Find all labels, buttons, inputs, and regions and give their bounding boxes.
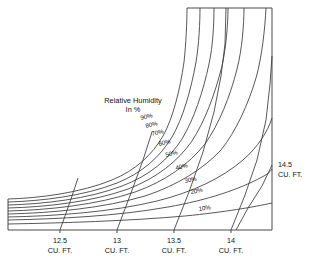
volume-label-12-5-unit: CU. FT.: [48, 246, 72, 255]
rh-curve-10: [8, 203, 272, 224]
rh-curve-70: [8, 8, 214, 205]
psychrometric-chart: Relative Humidity In % 90% 80% 70% 60% 5…: [0, 0, 316, 262]
volume-label-13-5-unit: CU. FT.: [162, 246, 186, 255]
volume-label-13-unit: CU. FT.: [105, 246, 129, 255]
rh-label-70: 70%: [151, 127, 165, 137]
rh-label-40: 40%: [175, 161, 189, 171]
chart-canvas: Relative Humidity In % 90% 80% 70% 60% 5…: [0, 0, 316, 262]
volume-label-13-value: 13: [113, 236, 121, 245]
rh-label-80: 80%: [145, 119, 159, 129]
rh-label-50: 50%: [165, 148, 179, 158]
volume-line-13-5: [174, 8, 226, 230]
rh-label-30: 30%: [184, 175, 198, 184]
rh-label-20: 20%: [190, 186, 204, 195]
rh-title-line1: Relative Humidity: [104, 96, 162, 105]
volume-label-14-unit: CU. FT.: [219, 246, 243, 255]
volume-label-13-5-value: 13.5: [167, 236, 181, 245]
volume-label-12-5-value: 12.5: [53, 236, 67, 245]
rh-label-10: 10%: [198, 203, 212, 212]
rh-title-line2: In %: [126, 105, 141, 114]
volume-label-14-value: 14: [227, 236, 235, 245]
rh-label-60: 60%: [158, 137, 172, 147]
rh-curve-80: [8, 8, 200, 202]
volume-label-14-5-unit: CU. FT.: [278, 170, 302, 179]
volume-label-14-5-value: 14.5: [278, 160, 292, 169]
